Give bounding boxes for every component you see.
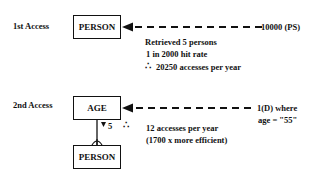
access2-source-line1: 1(D) where (257, 104, 297, 113)
age-entity: AGE (73, 96, 121, 120)
age-person-relationship (92, 120, 106, 145)
cardinality-label: 5 (108, 122, 112, 131)
access1-therefore-icon: ∴ (145, 61, 151, 71)
access2-note-2: (1700 x more efficient) (146, 136, 227, 145)
access1-note-3: 20250 accesses per year (156, 63, 241, 72)
access2-therefore-icon: ∴ (123, 120, 129, 130)
access1-label: 1st Access (13, 22, 49, 31)
access2-note-1: 12 accesses per year (146, 124, 218, 133)
access2-arrow (122, 104, 251, 113)
person-entity-1-label: PERSON (79, 22, 116, 32)
age-entity-label: AGE (87, 103, 107, 113)
access2-source-line2: age = "55" (258, 116, 297, 125)
access1-note-1: Retrieved 5 persons (145, 38, 217, 47)
person-entity-2-label: PERSON (79, 152, 116, 162)
access1-source: 10000 (PS) (261, 23, 300, 32)
access2-label: 2nd Access (13, 101, 52, 110)
person-entity-1: PERSON (73, 15, 121, 39)
direction-triangle-icon (101, 122, 106, 127)
person-entity-2: PERSON (73, 145, 121, 169)
access1-note-2: 1 in 2000 hit rate (146, 50, 207, 59)
access1-arrow (122, 23, 262, 32)
